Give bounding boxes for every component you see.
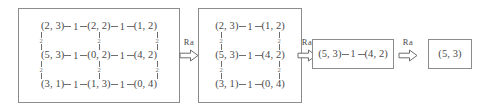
edge-label: 1 (71, 22, 80, 32)
graph-box-step-1: (2, 3) 1 (2, 2) 1 (1, 2) 2 2 2 (5, 3) 1 … (18, 8, 180, 103)
reduction-arrow-3: Ra (396, 38, 420, 62)
horizontal-edge: 1 (64, 22, 87, 32)
vertical-edge: 2 (204, 32, 238, 51)
edge-dash-icon (255, 55, 262, 56)
graph-grid-step-1: (2, 3) 1 (2, 2) 1 (1, 2) 2 2 2 (5, 3) 1 … (24, 21, 174, 90)
graph-node: (4, 2) (134, 50, 157, 61)
edge-dash-icon (342, 54, 349, 55)
horizontal-edge: 1 (239, 22, 262, 32)
vertical-edge: 2 (24, 32, 58, 51)
horizontal-edge: 1 (111, 22, 134, 32)
edge-dash-icon (80, 55, 87, 56)
hollow-right-arrow-icon (398, 49, 418, 62)
edge-label: 1 (246, 80, 255, 90)
graph-node: (0, 4) (262, 79, 285, 90)
graph-node: (1, 2) (134, 21, 157, 32)
graph-row: (3, 1) 1 (1, 3) 1 (0, 4) (41, 79, 157, 90)
horizontal-edge: 1 (64, 51, 87, 61)
edge-dash-icon (111, 55, 118, 56)
vertical-edge-row: 2 2 (204, 32, 296, 51)
graph-row: (2, 3) 1 (1, 2) (215, 21, 285, 32)
graph-node: (2, 3) (41, 21, 64, 32)
horizontal-edge: 1 (64, 80, 87, 90)
arrow-label: Ra (184, 38, 195, 47)
graph-node: (3, 1) (41, 79, 64, 90)
graph-node: (3, 1) (215, 79, 238, 90)
graph-row: (5, 3) 1 (4, 2) (318, 49, 388, 60)
vertical-edge: 2 (204, 61, 238, 80)
edge-dash-icon (127, 26, 134, 27)
edge-label: 1 (118, 22, 127, 32)
graph-box-step-4: (5, 3) (428, 39, 472, 69)
vertical-edge: 2 (24, 61, 58, 80)
vertical-edge-row: 2 2 2 (24, 32, 174, 51)
graph-node: (5, 3) (438, 49, 461, 60)
reduction-arrow-1: Ra (178, 38, 200, 62)
horizontal-edge: 1 (342, 49, 365, 59)
vertical-edge: 2 (262, 32, 296, 51)
graph-node: (1, 2) (262, 21, 285, 32)
horizontal-edge: 1 (239, 80, 262, 90)
diagram-canvas: (2, 3) 1 (2, 2) 1 (1, 2) 2 2 2 (5, 3) 1 … (0, 0, 482, 111)
graph-row: (5, 3) 1 (4, 2) (215, 50, 285, 61)
vertical-edge-row: 2 2 2 (24, 61, 174, 80)
graph-node: (4, 2) (365, 49, 388, 60)
vertical-edge: 2 (82, 32, 116, 51)
graph-row: (5, 3) 1 (0, 2) 1 (4, 2) (41, 50, 157, 61)
graph-node: (2, 2) (87, 21, 110, 32)
edge-dash-icon (80, 84, 87, 85)
vertical-edge: 2 (140, 32, 174, 51)
edge-dash-icon (239, 84, 246, 85)
graph-grid-step-2: (2, 3) 1 (1, 2) 2 2 (5, 3) 1 (4, 2) 2 2 … (204, 21, 296, 90)
edge-dash-icon (127, 55, 134, 56)
edge-dash-icon (255, 26, 262, 27)
vertical-edge: 2 (262, 61, 296, 80)
edge-dash-icon (80, 26, 87, 27)
edge-dash-icon (64, 55, 71, 56)
edge-dash-icon (111, 84, 118, 85)
horizontal-edge: 1 (239, 51, 262, 61)
edge-label: 1 (118, 80, 127, 90)
graph-row: (2, 3) 1 (2, 2) 1 (1, 2) (41, 21, 157, 32)
edge-dash-icon (239, 26, 246, 27)
vertical-edge: 2 (140, 61, 174, 80)
vertical-edge-row: 2 2 (204, 61, 296, 80)
graph-node: (5, 3) (215, 50, 238, 61)
edge-label: 1 (71, 80, 80, 90)
graph-grid-step-3: (5, 3) 1 (4, 2) (318, 49, 388, 60)
horizontal-edge: 1 (111, 51, 134, 61)
arrow-label: Ra (403, 38, 414, 47)
edge-dash-icon (255, 84, 262, 85)
graph-node: (1, 3) (87, 79, 110, 90)
edge-dash-icon (239, 55, 246, 56)
vertical-edge: 2 (82, 61, 116, 80)
graph-node: (2, 3) (215, 21, 238, 32)
graph-box-step-3: (5, 3) 1 (4, 2) (312, 39, 394, 69)
edge-dash-icon (64, 84, 71, 85)
graph-node: (4, 2) (262, 50, 285, 61)
edge-label: 1 (246, 51, 255, 61)
graph-node: (0, 4) (134, 79, 157, 90)
graph-row: (3, 1) 1 (0, 4) (215, 79, 285, 90)
edge-dash-icon (64, 26, 71, 27)
graph-box-step-2: (2, 3) 1 (1, 2) 2 2 (5, 3) 1 (4, 2) 2 2 … (198, 8, 302, 103)
graph-node: (5, 3) (318, 49, 341, 60)
graph-row: (5, 3) (438, 49, 461, 60)
edge-label: 1 (118, 51, 127, 61)
edge-dash-icon (111, 26, 118, 27)
edge-label: 1 (71, 51, 80, 61)
arrow-label: Ra (302, 38, 313, 47)
edge-label: 1 (349, 49, 358, 59)
edge-dash-icon (127, 84, 134, 85)
hollow-right-arrow-icon (179, 49, 199, 62)
graph-grid-step-4: (5, 3) (438, 49, 461, 60)
horizontal-edge: 1 (111, 80, 134, 90)
edge-label: 1 (246, 22, 255, 32)
graph-node: (0, 2) (87, 50, 110, 61)
graph-node: (5, 3) (41, 50, 64, 61)
edge-dash-icon (358, 54, 365, 55)
